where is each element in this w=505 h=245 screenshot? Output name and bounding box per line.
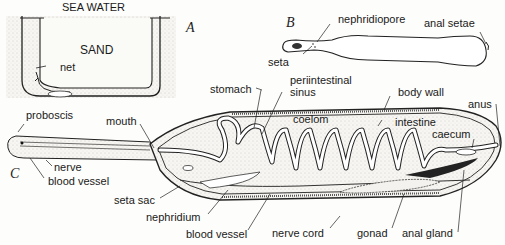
- panel-label-a: A: [186, 20, 195, 36]
- panel-label-c: C: [10, 166, 19, 182]
- label-sand: SAND: [80, 44, 113, 56]
- label-anal-gland: anal gland: [402, 227, 453, 239]
- label-caecum: caecum: [432, 128, 471, 140]
- panel-label-b: B: [286, 15, 295, 31]
- label-stomach: stomach: [210, 83, 252, 95]
- label-nephridium: nephridium: [146, 211, 200, 223]
- label-blood-vessel-left: blood vessel: [48, 175, 109, 187]
- label-nephridiopore: nephridiopore: [338, 13, 405, 25]
- external-body-illustration: [283, 24, 489, 66]
- label-gonad: gonad: [357, 227, 388, 239]
- label-nerve-cord: nerve cord: [272, 227, 324, 239]
- echiuran-anatomy-diagram: A B C SEA WATER SAND net nephridiopore a…: [0, 0, 505, 245]
- burrow-illustration: [6, 16, 176, 98]
- label-sinus: sinus: [290, 86, 316, 98]
- label-seta: seta: [268, 56, 289, 68]
- label-coelom: coelom: [293, 113, 328, 125]
- label-sea-water: SEA WATER: [62, 1, 125, 13]
- label-seta-sac: seta sac: [114, 194, 155, 206]
- label-anal-setae: anal setae: [424, 17, 475, 29]
- label-net: net: [60, 61, 75, 73]
- label-body-wall: body wall: [398, 86, 444, 98]
- label-intestine: intestine: [395, 116, 436, 128]
- internal-anatomy-illustration: [8, 88, 501, 232]
- label-nerve: nerve: [54, 161, 82, 173]
- label-anus: anus: [468, 98, 492, 110]
- label-proboscis: proboscis: [26, 109, 73, 121]
- label-mouth: mouth: [106, 115, 137, 127]
- label-blood-vessel-bottom: blood vessel: [186, 228, 247, 240]
- label-periintestinal: periintestinal: [290, 74, 352, 86]
